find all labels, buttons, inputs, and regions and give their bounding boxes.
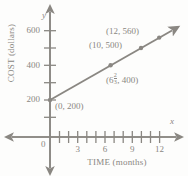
y-axis-letter: y	[42, 11, 46, 20]
point-0-200	[48, 98, 52, 102]
point-10-500	[139, 46, 143, 50]
y-tick-label-400: 400	[14, 61, 40, 70]
point-12-560	[157, 35, 161, 39]
origin-label: 0	[41, 140, 46, 149]
y-tick-label-600: 600	[14, 26, 40, 35]
point-6-2-3-400	[108, 63, 112, 67]
y-axis-title: COST (dollars)	[6, 16, 16, 90]
annotation-0-200: (0, 200)	[55, 102, 84, 111]
y-axis-title-text: COST (dollars)	[6, 16, 16, 90]
graph-figure: y x 0 600 400 200 3 6 9 12 COST (dollars…	[0, 0, 188, 176]
y-tick-label-200: 200	[14, 95, 40, 104]
x-tick-label-6: 6	[98, 145, 112, 154]
x-tick-label-3: 3	[71, 145, 85, 154]
annotation-6-2-3-400: (623, 400)	[106, 72, 138, 86]
x-axis-letter: x	[170, 117, 174, 126]
annotation-12-560: (12, 560)	[106, 27, 139, 36]
annotation-10-500: (10, 500)	[89, 41, 122, 50]
annotation-close-400: , 400)	[117, 76, 138, 85]
x-tick-label-12: 12	[153, 145, 167, 154]
x-axis-title: TIME (months)	[57, 158, 177, 167]
x-tick-label-9: 9	[125, 145, 139, 154]
annotation-open-paren-6: (6	[106, 76, 114, 85]
